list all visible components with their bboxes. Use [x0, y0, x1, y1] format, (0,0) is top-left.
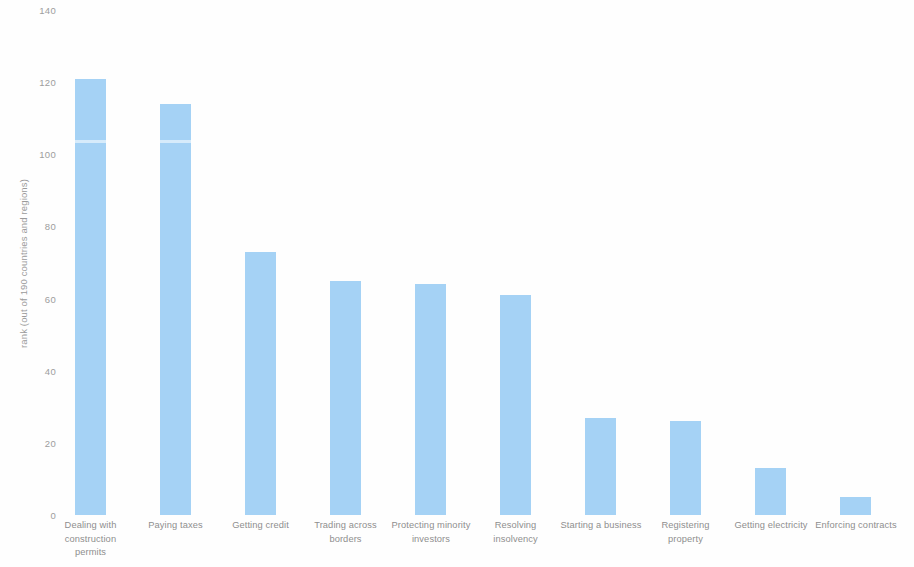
- y-axis-tick-label: 140: [12, 5, 56, 16]
- bar[interactable]: [330, 281, 361, 515]
- bar-group: Enforcing contracts: [825, 0, 910, 515]
- bar[interactable]: [840, 497, 871, 515]
- x-axis-category-label-line: Dealing with: [52, 519, 129, 533]
- y-axis-tick-label: 120: [12, 77, 56, 88]
- x-axis-category-label-line: Getting credit: [222, 519, 299, 533]
- x-axis-category-label-line: Enforcing contracts: [811, 519, 901, 533]
- x-axis-category-label: Trading acrossborders: [307, 519, 384, 546]
- bar-group: Protecting minorityinvestors: [400, 0, 485, 515]
- x-axis-category-label: Paying taxes: [137, 519, 214, 533]
- y-axis-tick-label: 0: [12, 510, 56, 521]
- y-axis-tick-label: 40: [12, 365, 56, 376]
- x-axis-category-label-line: Resolving: [477, 519, 554, 533]
- bar[interactable]: [755, 468, 786, 515]
- bar-group: Dealing withconstructionpermits: [60, 0, 145, 515]
- scan-artifact: [160, 140, 191, 143]
- y-axis-ticks: 020406080100120140: [0, 0, 56, 567]
- x-axis-category-label: Getting electricity: [726, 519, 816, 533]
- x-axis-category-label-line: Protecting minority: [386, 519, 476, 533]
- bar-chart: rank (out of 190 countries and regions) …: [0, 0, 914, 567]
- x-axis-category-label-line: borders: [307, 533, 384, 547]
- x-axis-category-label: Dealing withconstructionpermits: [52, 519, 129, 560]
- x-axis-category-label-line: investors: [386, 533, 476, 547]
- x-axis-category-label-line: Starting a business: [556, 519, 646, 533]
- plot-area: Dealing withconstructionpermitsPaying ta…: [60, 0, 914, 567]
- x-axis-category-label: Starting a business: [556, 519, 646, 533]
- scan-artifact: [75, 140, 106, 143]
- bar-group: Registeringproperty: [655, 0, 740, 515]
- x-axis-category-label: Protecting minorityinvestors: [386, 519, 476, 546]
- y-axis-tick-label: 20: [12, 437, 56, 448]
- bar[interactable]: [160, 104, 191, 515]
- bar[interactable]: [585, 418, 616, 515]
- x-axis-category-label-line: Trading across: [307, 519, 384, 533]
- x-axis-category-label-line: permits: [52, 546, 129, 560]
- x-axis-category-label-line: insolvency: [477, 533, 554, 547]
- y-axis-tick-label: 80: [12, 221, 56, 232]
- x-axis-category-label: Getting credit: [222, 519, 299, 533]
- x-axis-category-label: Enforcing contracts: [811, 519, 901, 533]
- bar[interactable]: [415, 284, 446, 515]
- x-axis-category-label-line: Registering: [647, 519, 724, 533]
- bar[interactable]: [75, 79, 106, 515]
- x-axis-category-label-line: Getting electricity: [726, 519, 816, 533]
- x-axis-category-label-line: property: [647, 533, 724, 547]
- bar[interactable]: [670, 421, 701, 515]
- y-axis-tick-label: 100: [12, 149, 56, 160]
- bar[interactable]: [245, 252, 276, 515]
- bar-group: Starting a business: [570, 0, 655, 515]
- x-axis-category-label-line: Paying taxes: [137, 519, 214, 533]
- bar-group: Resolvinginsolvency: [485, 0, 570, 515]
- bar-group: Getting electricity: [740, 0, 825, 515]
- y-axis-tick-label: 60: [12, 293, 56, 304]
- bar-group: Trading acrossborders: [315, 0, 400, 515]
- x-axis-category-label-line: construction: [52, 533, 129, 547]
- x-axis-category-label: Resolvinginsolvency: [477, 519, 554, 546]
- bar[interactable]: [500, 295, 531, 515]
- bar-group: Paying taxes: [145, 0, 230, 515]
- x-axis-category-label: Registeringproperty: [647, 519, 724, 546]
- bar-group: Getting credit: [230, 0, 315, 515]
